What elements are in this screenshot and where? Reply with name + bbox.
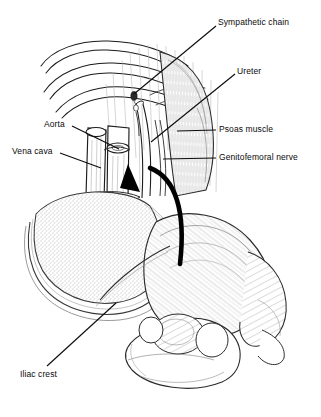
psoas-muscle-body — [160, 52, 213, 196]
label-vena-cava: Vena cava — [12, 147, 53, 156]
label-iliac-crest: Iliac crest — [20, 370, 57, 379]
leader-iliac-crest — [47, 303, 116, 366]
anatomy-illustration — [0, 0, 321, 417]
label-sympathetic-chain: Sympathetic chain — [218, 18, 289, 27]
label-psoas-muscle: Psoas muscle — [219, 125, 273, 134]
label-ureter: Ureter — [237, 67, 261, 76]
kidney-mass-fill — [34, 192, 162, 303]
anatomical-figure: Sympathetic chain Ureter Psoas muscle Ge… — [0, 0, 321, 417]
psoas-outline — [160, 52, 213, 196]
label-aorta: Aorta — [44, 120, 65, 129]
label-genitofemoral-nerve: Genitofemoral nerve — [219, 153, 298, 162]
sacral-ala — [196, 323, 228, 357]
vena-cava-lumen — [86, 127, 106, 136]
ureter-structure — [136, 101, 151, 198]
sacral-body — [139, 317, 163, 343]
